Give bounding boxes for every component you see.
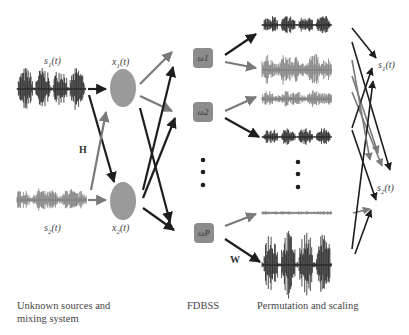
- frequency-bin-box-p: ωP: [194, 223, 214, 243]
- mixture-label-x1: x1(t): [112, 56, 129, 70]
- mixture-label-x2: x2(t): [112, 222, 129, 236]
- output-label-s2: s2(t): [377, 182, 394, 196]
- fdbss-arrows: [140, 52, 175, 230]
- frequency-bin-box-1: ω1: [193, 48, 213, 68]
- source-waveform-s2: [17, 189, 87, 211]
- mixture-node-x2: [110, 182, 136, 220]
- mixing-arrows: [88, 89, 114, 200]
- bin-output-waveform-3: [262, 90, 332, 107]
- bin-output-waveform-5: [262, 211, 332, 214]
- frequency-bin-box-2: ω2: [193, 102, 213, 122]
- bin-output-waveform-6: [262, 231, 332, 299]
- mixing-matrix-label: H: [79, 144, 87, 155]
- bin-output-arrows: [225, 34, 260, 262]
- mixture-node-x1: [110, 69, 136, 107]
- source-label-s1: s1(t): [44, 55, 61, 69]
- frequency-bin-ellipsis: [201, 158, 206, 188]
- bin-output-waveform-4: [262, 128, 332, 145]
- caption-right: Permutation and scaling: [257, 299, 358, 312]
- source-label-s2: s2(t): [44, 222, 61, 236]
- bin-output-waveform-1: [262, 16, 332, 33]
- bin-output-waveform-2: [262, 54, 332, 85]
- caption-middle: FDBSS: [187, 299, 219, 312]
- caption-left: Unknown sources and mixing system: [17, 299, 137, 325]
- output-label-s1: s1(t): [378, 59, 395, 73]
- source-waveform-s1: [17, 68, 86, 110]
- output-ellipsis: [296, 160, 301, 190]
- demixing-matrix-label: W: [230, 254, 240, 265]
